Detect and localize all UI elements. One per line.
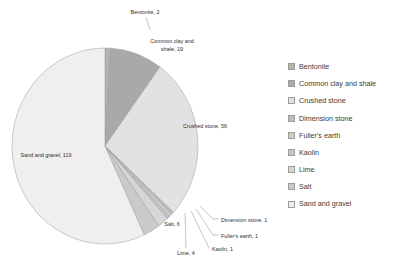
leader-lime bbox=[185, 213, 186, 248]
slice-label-kaolin: Kaolin, 1 bbox=[212, 246, 233, 252]
legend-swatch-icon bbox=[288, 201, 295, 208]
pie-chart: Bentonite, 2 Common clay and shale, 19 C… bbox=[0, 0, 419, 264]
legend-item-label: Common clay and shale bbox=[299, 80, 376, 87]
pie-slices bbox=[12, 48, 198, 244]
legend-item-label: Fuller's earth bbox=[299, 132, 340, 139]
legend-swatch-icon bbox=[288, 63, 295, 70]
slice-label-common-clay-line2: shale, 19 bbox=[161, 46, 183, 52]
legend-swatch-icon bbox=[288, 132, 295, 139]
legend-swatch-icon bbox=[288, 97, 295, 104]
legend-swatch-icon bbox=[288, 183, 295, 190]
pie-chart-canvas: Bentonite, 2 Common clay and shale, 19 C… bbox=[0, 0, 290, 264]
legend-item-label: Bentonite bbox=[299, 63, 329, 70]
legend-item[interactable]: Sand and gravel bbox=[288, 196, 416, 213]
slice-label-lime: Lime, 4 bbox=[177, 250, 195, 256]
legend-swatch-icon bbox=[288, 80, 295, 87]
leader-fullers-earth bbox=[196, 209, 219, 235]
chart-legend: BentoniteCommon clay and shaleCrushed st… bbox=[288, 58, 416, 213]
legend-item[interactable]: Bentonite bbox=[288, 58, 416, 75]
slice-label-common-clay-line1: Common clay and bbox=[150, 38, 193, 44]
legend-item-label: Lime bbox=[299, 166, 315, 173]
leader-bentonite bbox=[146, 17, 150, 30]
legend-swatch-icon bbox=[288, 115, 295, 122]
legend-item[interactable]: Lime bbox=[288, 161, 416, 178]
legend-item-label: Crushed stone bbox=[299, 97, 346, 104]
slice-label-dimension-stone: Dimension stone, 1 bbox=[221, 217, 267, 223]
leader-kaolin bbox=[191, 211, 209, 248]
legend-item-label: Dimension stone bbox=[299, 115, 353, 122]
legend-item[interactable]: Dimension stone bbox=[288, 110, 416, 127]
slice-label-bentonite: Bentonite, 2 bbox=[131, 9, 160, 15]
legend-item[interactable]: Salt bbox=[288, 178, 416, 195]
slice-label-sand-and-gravel: Sand and gravel, 119 bbox=[21, 152, 72, 158]
leader-dimension-stone bbox=[200, 206, 219, 219]
legend-swatch-icon bbox=[288, 166, 295, 173]
legend-item-label: Kaolin bbox=[299, 149, 319, 156]
legend-item[interactable]: Crushed stone bbox=[288, 92, 416, 109]
legend-item[interactable]: Fuller's earth bbox=[288, 127, 416, 144]
legend-item[interactable]: Common clay and shale bbox=[288, 75, 416, 92]
legend-item-label: Sand and gravel bbox=[299, 200, 351, 207]
slice-label-crushed-stone: Crushed stone, 56 bbox=[183, 123, 227, 129]
legend-swatch-icon bbox=[288, 149, 295, 156]
slice-label-salt: Salt, 6 bbox=[164, 221, 179, 227]
slice-label-fullers-earth: Fuller's earth, 1 bbox=[221, 233, 258, 239]
legend-item[interactable]: Kaolin bbox=[288, 144, 416, 161]
legend-item-label: Salt bbox=[299, 183, 311, 190]
